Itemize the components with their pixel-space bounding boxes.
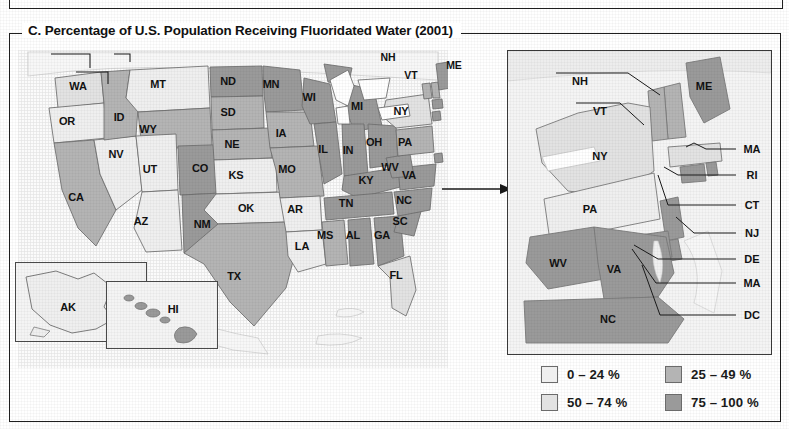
state-label-ms: MS (317, 229, 333, 241)
state-label-wi: WI (302, 91, 315, 103)
state-label-ia: IA (276, 127, 287, 139)
state-label-sd: SD (221, 106, 236, 118)
state-label-wy: WY (139, 123, 156, 135)
callout-label-me: ME (446, 59, 462, 71)
legend-item-0-24: 0 – 24 % (521, 366, 645, 383)
previous-panel-border (9, 0, 783, 9)
state-label-il: IL (318, 143, 327, 155)
state-label-mi: MI (351, 100, 363, 112)
state-label-mn: MN (263, 78, 280, 90)
callout-label-nh: NH (380, 51, 395, 63)
legend-item-75-100: 75 – 100 % (645, 394, 769, 411)
state-label-mt: MT (150, 78, 165, 90)
state-label-ut: UT (143, 163, 157, 175)
state-label-ny: NY (394, 105, 409, 117)
legend-swatch-0-24 (541, 366, 558, 383)
state-label-mo: MO (278, 163, 295, 175)
inset-callout-label-ma-1: MA (743, 143, 760, 155)
state-label-ca: CA (68, 191, 84, 203)
state-label-nv: NV (109, 148, 124, 160)
state-label-ga: GA (374, 229, 390, 241)
inset-callout-label-nh: NH (572, 75, 588, 87)
hawaii-inset-frame: HI (106, 281, 218, 349)
inset-state-label-nc: NC (600, 313, 616, 325)
state-label-ne: NE (225, 138, 240, 150)
legend-label-0-24: 0 – 24 % (567, 367, 620, 382)
inset-state-label-wv: WV (549, 257, 567, 269)
state-label-wa: WA (69, 80, 86, 92)
legend-swatch-25-49 (665, 366, 682, 383)
legend-label-75-100: 75 – 100 % (691, 395, 759, 410)
state-label-tn: TN (339, 197, 353, 209)
inset-callout-label-dc: DC (744, 309, 760, 321)
state-label-az: AZ (134, 215, 148, 227)
legend-label-25-49: 25 – 49 % (691, 367, 751, 382)
state-label-hi: HI (168, 303, 179, 315)
state-label-fl: FL (389, 269, 402, 281)
inset-callout-label-ma-2: MA (743, 277, 760, 289)
state-label-la: LA (295, 240, 309, 252)
state-label-tx: TX (227, 270, 241, 282)
inset-state-label-me: ME (696, 80, 713, 92)
state-label-nc: NC (396, 194, 412, 206)
inset-callout-label-de: DE (744, 253, 759, 265)
inset-state-label-ny: NY (592, 150, 607, 162)
inset-callout-label-nj: NJ (745, 227, 759, 239)
inset-pointer-arrow (442, 182, 512, 196)
state-label-ak: AK (60, 301, 76, 313)
inset-callout-label-ri: RI (747, 169, 758, 181)
state-label-nd: ND (220, 75, 236, 87)
state-label-ar: AR (287, 203, 303, 215)
legend-item-50-74: 50 – 74 % (521, 394, 645, 411)
state-label-al: AL (346, 229, 360, 241)
state-label-va: VA (402, 169, 416, 181)
inset-callout-label-ct: CT (745, 199, 760, 211)
legend-label-50-74: 50 – 74 % (567, 395, 627, 410)
northeast-inset[interactable]: NH VT ME NY PA WV VA NC MA RI CT NJ DE M… (507, 50, 772, 355)
state-label-co: CO (192, 162, 208, 174)
legend-swatch-50-74 (541, 394, 558, 411)
hawaii-map (107, 282, 217, 348)
state-label-oh: OH (366, 136, 382, 148)
legend-item-25-49: 25 – 49 % (645, 366, 769, 383)
map-area: WA OR CA NV ID MT WY UT AZ CO NM ND SD N… (10, 44, 778, 419)
legend-swatch-75-100 (665, 394, 682, 411)
state-label-ks: KS (229, 169, 244, 181)
callout-label-vt: VT (404, 69, 417, 81)
state-label-sc: SC (393, 215, 408, 227)
inset-state-label-va: VA (607, 263, 621, 275)
state-label-or: OR (59, 115, 75, 127)
legend: 0 – 24 % 25 – 49 % 50 – 74 % 75 – 100 % (521, 360, 770, 416)
page-title: C. Percentage of U.S. Population Receivi… (22, 23, 461, 38)
state-label-in: IN (343, 144, 354, 156)
state-label-wv: WV (381, 161, 398, 173)
state-label-ok: OK (238, 202, 254, 214)
inset-state-label-pa: PA (583, 203, 597, 215)
northeast-inset-map[interactable] (508, 51, 771, 354)
inset-callout-label-vt: VT (593, 105, 607, 117)
state-label-id: ID (114, 111, 125, 123)
state-label-nm: NM (194, 218, 211, 230)
state-label-ky: KY (359, 174, 374, 186)
state-label-pa: PA (398, 136, 412, 148)
